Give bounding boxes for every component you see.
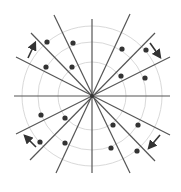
dot: [108, 145, 113, 150]
dot: [43, 64, 48, 69]
dot: [69, 64, 74, 69]
dot: [62, 115, 67, 120]
arrow-upper-right-icon: [150, 43, 160, 57]
radial-diagram: [0, 0, 181, 192]
arrow-lower-left-icon: [25, 136, 36, 147]
radial-diagram-canvas: [0, 0, 181, 192]
dot: [38, 112, 43, 117]
dot: [70, 40, 75, 45]
center-point: [90, 94, 94, 98]
radial-lines: [14, 14, 170, 173]
arrow-upper-left-icon: [28, 43, 35, 58]
dot: [110, 122, 115, 127]
dot: [37, 139, 42, 144]
dot: [135, 122, 140, 127]
dot: [142, 75, 147, 80]
dot: [44, 39, 49, 44]
dot: [143, 47, 148, 52]
dot: [62, 140, 67, 145]
dot: [118, 73, 123, 78]
dot: [119, 46, 124, 51]
arrow-lower-right-icon: [149, 135, 160, 148]
dot: [134, 148, 139, 153]
